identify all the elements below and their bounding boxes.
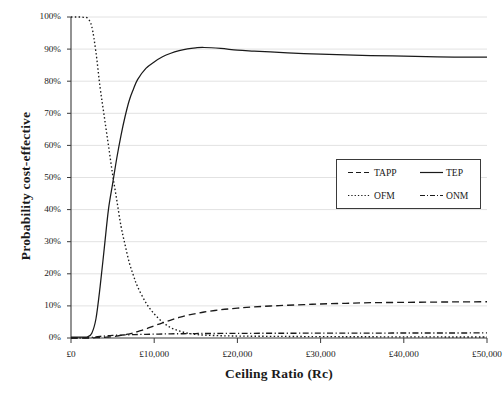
legend-item-ofm: OFM [347, 190, 395, 201]
legend-item-tep: TEP [419, 167, 463, 178]
series-line-onm [71, 333, 487, 338]
chart-legend: TAPP TEP OFM ONM [336, 159, 481, 209]
legend-swatch-tapp [347, 168, 372, 177]
legend-swatch-ofm [347, 191, 372, 200]
legend-label-tapp: TAPP [374, 167, 397, 178]
legend-label-tep: TEP [446, 167, 463, 178]
legend-item-tapp: TAPP [347, 167, 397, 178]
legend-label-onm: ONM [446, 190, 468, 201]
legend-item-onm: ONM [419, 190, 468, 201]
legend-swatch-onm [419, 191, 444, 200]
legend-label-ofm: OFM [374, 190, 395, 201]
chart-figure: Probability cost-effective Ceiling Ratio… [0, 0, 504, 395]
legend-swatch-tep [419, 168, 444, 177]
